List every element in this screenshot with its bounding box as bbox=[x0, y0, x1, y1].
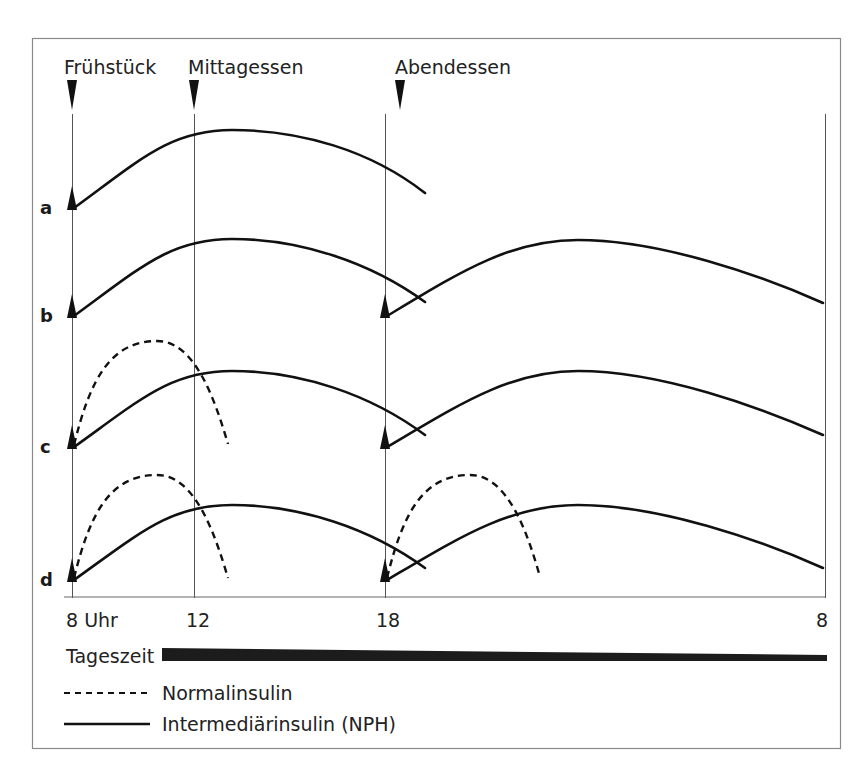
time-gridlines bbox=[73, 114, 826, 598]
legend-normalinsulin-label: Normalinsulin bbox=[162, 682, 293, 704]
row-label-c: c bbox=[40, 436, 51, 457]
nph-curve-d-morning bbox=[74, 505, 425, 580]
nph-curve-c-evening bbox=[387, 371, 823, 447]
legend: Normalinsulin Intermediärinsulin (NPH) bbox=[64, 682, 396, 735]
normal-curve-d-evening bbox=[387, 475, 540, 578]
nph-curves bbox=[74, 130, 823, 580]
tageszeit-label: Tageszeit bbox=[65, 645, 154, 667]
nph-curve-b-evening bbox=[387, 240, 823, 316]
x-tick-8-uhr: 8 Uhr bbox=[66, 609, 118, 631]
x-tick-12: 12 bbox=[186, 609, 210, 631]
nph-curve-d-evening bbox=[387, 505, 823, 580]
figure-frame bbox=[33, 39, 841, 749]
meal-marker-dinner-icon bbox=[395, 80, 405, 110]
row-label-b: b bbox=[40, 305, 53, 326]
meal-label-lunch: Mittagessen bbox=[188, 56, 304, 78]
normal-insulin-curves bbox=[74, 341, 540, 578]
row-label-a: a bbox=[40, 197, 52, 218]
meal-marker-lunch-icon bbox=[189, 80, 199, 110]
legend-nph-label: Intermediärinsulin (NPH) bbox=[162, 713, 396, 735]
meal-label-breakfast: Frühstück bbox=[64, 56, 156, 78]
x-tick-18: 18 bbox=[376, 609, 400, 631]
x-tick-8-next: 8 bbox=[816, 609, 828, 631]
meal-label-dinner: Abendessen bbox=[395, 56, 511, 78]
injection-markers bbox=[67, 186, 390, 582]
nph-curve-c-morning bbox=[74, 371, 425, 447]
insulin-regimen-diagram: Frühstück Mittagessen Abendessen a b c d bbox=[0, 0, 868, 770]
row-label-d: d bbox=[40, 569, 53, 590]
meal-marker-breakfast-icon bbox=[67, 80, 77, 110]
nph-curve-b-morning bbox=[74, 239, 425, 316]
tageszeit-bar bbox=[162, 648, 827, 661]
nph-curve-a-morning bbox=[74, 130, 425, 208]
